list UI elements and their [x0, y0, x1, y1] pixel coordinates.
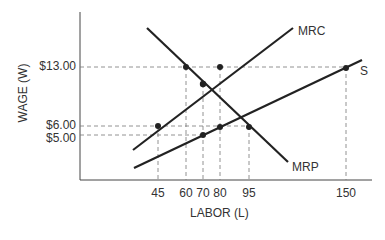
y-tick-5: $5.00 — [6, 131, 76, 145]
x-tick-45: 45 — [143, 186, 173, 200]
x-tick-80: 80 — [205, 186, 235, 200]
supply-curve — [134, 60, 362, 168]
x-tick-150: 150 — [331, 186, 361, 200]
x-tick-95: 95 — [234, 186, 264, 200]
y-tick-13: $13.00 — [6, 59, 76, 73]
supply-label: S — [360, 64, 368, 78]
mrp-label: MRP — [292, 160, 319, 174]
x-axis-label: LABOR (L) — [190, 206, 249, 220]
mrc-label: MRC — [298, 24, 325, 38]
y-tick-6: $6.00 — [6, 118, 76, 132]
